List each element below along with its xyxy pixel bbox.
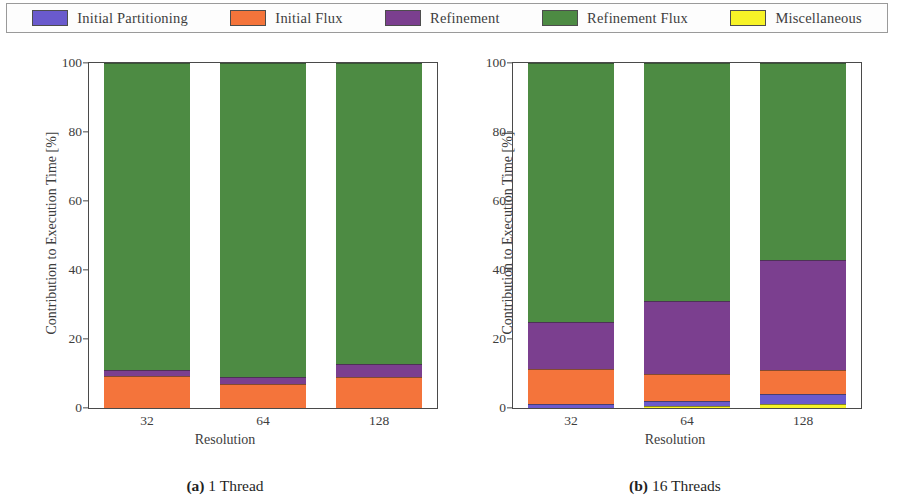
bar-segment-refinement-flux-64 [220,63,306,377]
bar-segment-initial-partitioning-32 [528,404,614,408]
subcaption-tag-a: (a) [186,477,204,494]
x-tick-label-32: 32 [564,413,578,429]
legend-swatch-initial-partitioning [32,10,68,26]
legend-item-initial-partitioning: Initial Partitioning [32,10,188,27]
bar-segment-initial-flux-32 [528,369,614,404]
bar-group-b: 3264128 [513,63,861,408]
x-tick-label-128: 128 [369,413,389,429]
subcaption-text-b: 16 Threads [652,477,721,494]
legend-label-miscellaneous: Miscellaneous [775,10,861,27]
legend-swatch-miscellaneous [730,10,766,26]
x-axis-label-a: Resolution [0,432,450,448]
plot-area-b: Contribution to Execution Time [%] 32641… [450,40,900,504]
x-tick-label-64: 64 [256,413,270,429]
bar-segment-refinement-32 [528,322,614,370]
bar-32: 32 [528,63,614,408]
legend-item-refinement: Refinement [385,10,500,27]
bar-segment-refinement-128 [336,364,422,377]
y-tick-mark-20 [507,338,513,339]
subcaption-text-a: 1 Thread [208,477,263,494]
bar-segment-initial-flux-64 [644,374,730,401]
axes-b: 3264128 020406080100 [512,62,862,409]
bar-128: 128 [760,63,846,408]
legend-swatch-refinement [385,10,421,26]
bar-segment-refinement-128 [760,260,846,370]
x-tick-label-32: 32 [140,413,154,429]
x-tick-label-64: 64 [680,413,694,429]
y-tick-mark-0 [507,407,513,408]
bar-segment-refinement-flux-128 [336,63,422,364]
bar-128: 128 [336,63,422,408]
y-tick-mark-100 [507,62,513,63]
legend-item-miscellaneous: Miscellaneous [730,10,861,27]
bar-64: 64 [220,63,306,408]
legend-label-refinement-flux: Refinement Flux [587,10,688,27]
subcaption-a: (a) 1 Thread [0,477,450,495]
bar-group-a: 3264128 [89,63,437,408]
legend-label-refinement: Refinement [430,10,500,27]
legend-swatch-initial-flux [230,10,266,26]
y-tick-mark-60 [83,200,89,201]
subcaption-b: (b) 16 Threads [450,477,900,495]
y-tick-mark-40 [507,269,513,270]
bar-segment-refinement-flux-32 [104,63,190,370]
legend-swatch-refinement-flux [542,10,578,26]
chart-legend: Initial Partitioning Initial Flux Refine… [6,3,888,33]
axes-a: 3264128 020406080100 [88,62,438,409]
bar-segment-refinement-flux-32 [528,63,614,322]
subfigure-b: Contribution to Execution Time [%] 32641… [450,40,900,504]
bar-segment-initial-partitioning-64 [644,401,730,406]
bar-segment-initial-flux-32 [104,376,190,408]
bar-segment-miscellaneous-64 [644,406,730,408]
legend-label-initial-flux: Initial Flux [275,10,342,27]
bar-32: 32 [104,63,190,408]
x-axis-label-b: Resolution [450,432,900,448]
bar-segment-refinement-flux-128 [760,63,846,260]
y-tick-mark-40 [83,269,89,270]
y-tick-mark-80 [83,131,89,132]
bar-segment-initial-flux-128 [336,377,422,408]
bar-segment-miscellaneous-128 [760,404,846,408]
bar-segment-refinement-64 [220,377,306,384]
bar-segment-refinement-flux-64 [644,63,730,301]
legend-item-initial-flux: Initial Flux [230,10,342,27]
legend-item-refinement-flux: Refinement Flux [542,10,688,27]
y-tick-mark-80 [507,131,513,132]
bar-segment-initial-flux-64 [220,384,306,408]
y-tick-mark-100 [83,62,89,63]
y-tick-mark-60 [507,200,513,201]
bar-segment-initial-flux-128 [760,370,846,394]
y-tick-mark-0 [83,407,89,408]
plot-area-a: Contribution to Execution Time [%] 32641… [0,40,450,504]
y-tick-mark-20 [83,338,89,339]
x-tick-label-128: 128 [793,413,813,429]
y-axis-label-a: Contribution to Execution Time [%] [44,83,60,383]
bar-64: 64 [644,63,730,408]
subfigure-a: Contribution to Execution Time [%] 32641… [0,40,450,504]
figure-root: Initial Partitioning Initial Flux Refine… [0,0,900,504]
bar-segment-initial-partitioning-128 [760,394,846,404]
legend-label-initial-partitioning: Initial Partitioning [77,10,188,27]
bar-segment-refinement-64 [644,301,730,374]
bar-segment-refinement-32 [104,370,190,376]
subcaption-tag-b: (b) [629,477,648,494]
